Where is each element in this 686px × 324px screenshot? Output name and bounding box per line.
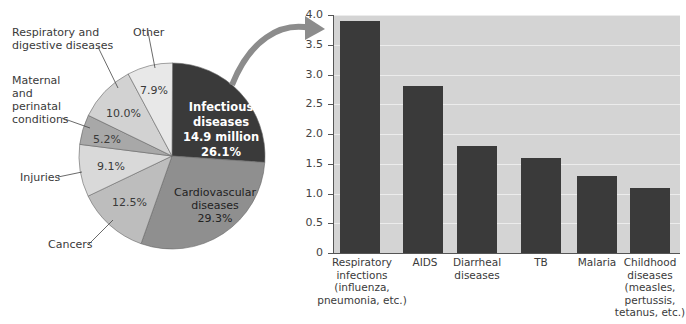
label-line: digestive diseases	[12, 39, 113, 52]
label-respiratory-digestive: Respiratory and digestive diseases	[12, 26, 113, 52]
label-line: pneumonia, etc.)	[312, 294, 412, 307]
y-tick-mark	[328, 134, 333, 135]
gridline	[334, 104, 680, 105]
label-line: pertussis,	[600, 294, 686, 307]
pct-other: 7.9%	[140, 84, 168, 97]
y-tick-mark	[328, 223, 333, 224]
y-tick-label: 4.0	[293, 8, 323, 21]
label-other: Other	[133, 26, 164, 39]
y-tick-mark	[328, 164, 333, 165]
bar	[630, 188, 670, 253]
label-line: diseases	[600, 269, 686, 282]
gridline	[334, 223, 680, 224]
gridline	[334, 194, 680, 195]
y-tick-mark	[328, 194, 333, 195]
infectious-label: Infectious diseases 14.9 million 26.1%	[176, 100, 266, 160]
bar	[340, 21, 380, 253]
gridline	[334, 75, 680, 76]
bar	[403, 86, 443, 253]
bar	[577, 176, 617, 253]
label-cancers: Cancers	[48, 238, 92, 251]
label-line: infections	[312, 269, 412, 282]
cardio-label: Cardiovascular diseases 29.3%	[165, 186, 265, 225]
label-line: Respiratory and	[12, 26, 113, 39]
label-line: and	[12, 87, 69, 100]
pct-injuries: 9.1%	[97, 160, 125, 173]
label-line: tetanus, etc.)	[600, 306, 686, 319]
label-line: Cardiovascular	[165, 186, 265, 199]
label-line: Infectious	[176, 100, 266, 115]
bar	[457, 146, 497, 253]
y-tick-label: 2.0	[293, 127, 323, 140]
y-tick-mark	[328, 45, 333, 46]
gridline	[334, 134, 680, 135]
label-line: conditions	[12, 113, 69, 126]
y-tick-mark	[328, 15, 333, 16]
label-line: 14.9 million	[176, 130, 266, 145]
bar	[521, 158, 561, 253]
label-line: (measles,	[600, 281, 686, 294]
gridline	[334, 15, 680, 16]
gridline	[334, 45, 680, 46]
label-line: (influenza,	[312, 281, 412, 294]
y-tick-label: 0.5	[293, 216, 323, 229]
label-maternal-perinatal: Maternal and perinatal conditions	[12, 74, 69, 126]
y-tick-label: 3.5	[293, 38, 323, 51]
y-tick-label: 2.5	[293, 97, 323, 110]
y-tick-mark	[328, 75, 333, 76]
gridline	[334, 164, 680, 165]
pct-maternal: 5.2%	[93, 133, 121, 146]
y-tick-label: 3.0	[293, 68, 323, 81]
label-line: 26.1%	[176, 145, 266, 160]
label-line: 29.3%	[165, 212, 265, 225]
label-line: diseases	[176, 115, 266, 130]
x-category-label: Childhooddiseases(measles,pertussis,teta…	[600, 256, 686, 319]
pct-cancers: 12.5%	[112, 196, 147, 209]
label-line: Childhood	[600, 256, 686, 269]
label-injuries: Injuries	[20, 171, 60, 184]
label-line: diseases	[427, 269, 527, 282]
label-line: perinatal	[12, 100, 69, 113]
pct-respiratory: 10.0%	[106, 107, 141, 120]
label-line: diseases	[165, 199, 265, 212]
y-tick-label: 1.5	[293, 157, 323, 170]
y-tick-mark	[328, 104, 333, 105]
y-tick-mark	[328, 253, 333, 254]
label-line: Maternal	[12, 74, 69, 87]
y-tick-label: 1.0	[293, 187, 323, 200]
